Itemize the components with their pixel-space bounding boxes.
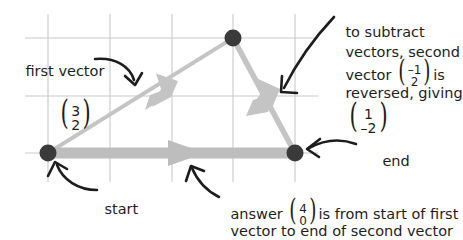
start-label: start (86, 184, 138, 235)
column-vector-values: 32 (71, 104, 80, 133)
apex-dot (225, 30, 242, 47)
vector-bottom-value: 2 (71, 118, 80, 132)
start-label-text: start (104, 201, 138, 217)
end-arrowhead (307, 139, 320, 157)
end-dot (287, 145, 304, 162)
first-vector-components: (32) (7, 66, 93, 170)
column-vector-3-2: (32) (27, 85, 93, 151)
column-vector-1-minus2: (1–2) (347, 107, 389, 136)
answer-caption-line2-text: vector to end of second vector (230, 223, 453, 239)
vector-bottom-value: –2 (361, 121, 377, 135)
end-label: end (364, 136, 410, 187)
vector-top-value: 3 (71, 104, 80, 118)
end-label-text: end (382, 153, 409, 169)
column-vector-values: 1–2 (361, 107, 377, 136)
answer-caption-line2: vector to end of second vector (212, 206, 453, 240)
callout-arrows (57, 17, 356, 197)
vector-top-value: 1 (361, 107, 377, 121)
